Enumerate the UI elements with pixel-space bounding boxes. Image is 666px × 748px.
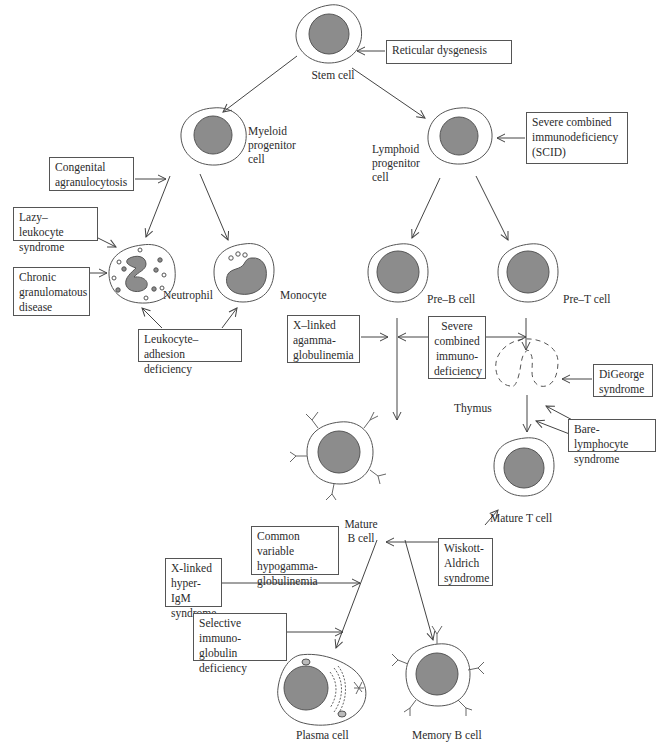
myeloid-progenitor-icon <box>181 108 246 165</box>
memory-b-cell-icon <box>392 626 484 716</box>
pre-b-cell-label: Pre–B cell <box>427 292 475 306</box>
pre-t-cell-label: Pre–T cell <box>563 292 610 306</box>
mature-b-cell-icon <box>290 412 386 500</box>
x-linked-hyper-igm-box: X-linked hyper-IgM syndrome <box>165 558 222 607</box>
leukocyte-adhesion-box: Leukocyte–adhesion deficiency <box>138 329 242 362</box>
chronic-granulomatous-box: Chronic granulomatous disease <box>13 267 90 316</box>
thymus-icon <box>496 339 558 387</box>
plasma-cell-label: Plasma cell <box>296 728 349 742</box>
wiskott-aldrich-box: Wiskott- Aldrich syndrome <box>438 538 493 586</box>
mature-b-cell-label: Mature B cell <box>336 517 386 545</box>
myeloid-progenitor-label: Myeloid progenitor cell <box>248 124 296 166</box>
mature-t-cell-icon <box>494 438 554 496</box>
lymphoid-progenitor-label: Lymphoid progenitor cell <box>372 142 420 184</box>
selective-ig-deficiency-box: Selective immuno- globulin deficiency <box>193 613 287 661</box>
digeorge-syndrome-box: DiGeorge syndrome <box>593 364 653 397</box>
cvid-box: Common variable hypogamma- globulinemia <box>251 526 339 575</box>
reticular-dysgenesis-box: Reticular dysgenesis <box>386 40 512 64</box>
pre-b-cell-icon <box>368 244 428 302</box>
lazy-leukocyte-box: Lazy–leukocyte syndrome <box>13 207 98 241</box>
x-linked-agammaglobulinemia-box: X–linked agamma- globulinemia <box>287 315 360 363</box>
monocyte-icon <box>214 244 274 302</box>
mature-t-cell-label: Mature T cell <box>490 511 552 525</box>
plasma-cell-icon <box>278 654 366 725</box>
monocyte-label: Monocyte <box>280 288 327 302</box>
lymphoid-progenitor-icon <box>428 108 492 164</box>
congenital-agranulocytosis-box: Congenital agranulocytosis <box>49 157 134 191</box>
scid-mid-box: Severe combined immuno- deficiency <box>428 316 486 379</box>
scid-box: Severe combined immunodeficiency (SCID) <box>526 112 628 164</box>
thymus-label: Thymus <box>454 401 492 415</box>
memory-b-cell-label: Memory B cell <box>412 728 482 742</box>
pre-t-cell-icon <box>498 244 558 302</box>
stem-cell-icon <box>296 5 362 63</box>
stem-cell-label: Stem cell <box>303 68 363 82</box>
bare-lymphocyte-box: Bare-lymphocyte syndrome <box>568 419 656 452</box>
neutrophil-label: Neutrophil <box>163 288 213 302</box>
